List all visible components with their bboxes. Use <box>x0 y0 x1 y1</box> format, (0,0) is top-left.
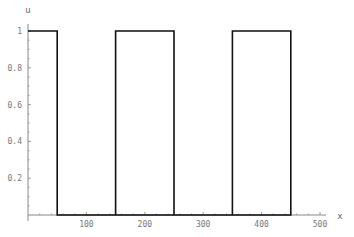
y-tick-label: 0.4 <box>8 137 23 146</box>
x-tick-label: 300 <box>196 220 211 229</box>
y-tick-label: 0.6 <box>8 101 23 110</box>
chart: 1002003004005000.20.40.60.81xu <box>0 0 354 237</box>
y-tick-label: 1 <box>17 27 22 36</box>
x-tick-label: 100 <box>79 220 94 229</box>
x-tick-label: 500 <box>313 220 328 229</box>
y-tick-label: 0.2 <box>8 174 23 183</box>
x-axis-label: x <box>337 211 343 221</box>
data-line <box>28 31 291 215</box>
x-tick-label: 400 <box>254 220 269 229</box>
y-tick-label: 0.8 <box>8 64 23 73</box>
y-axis-label: u <box>25 5 30 15</box>
x-tick-label: 200 <box>138 220 153 229</box>
